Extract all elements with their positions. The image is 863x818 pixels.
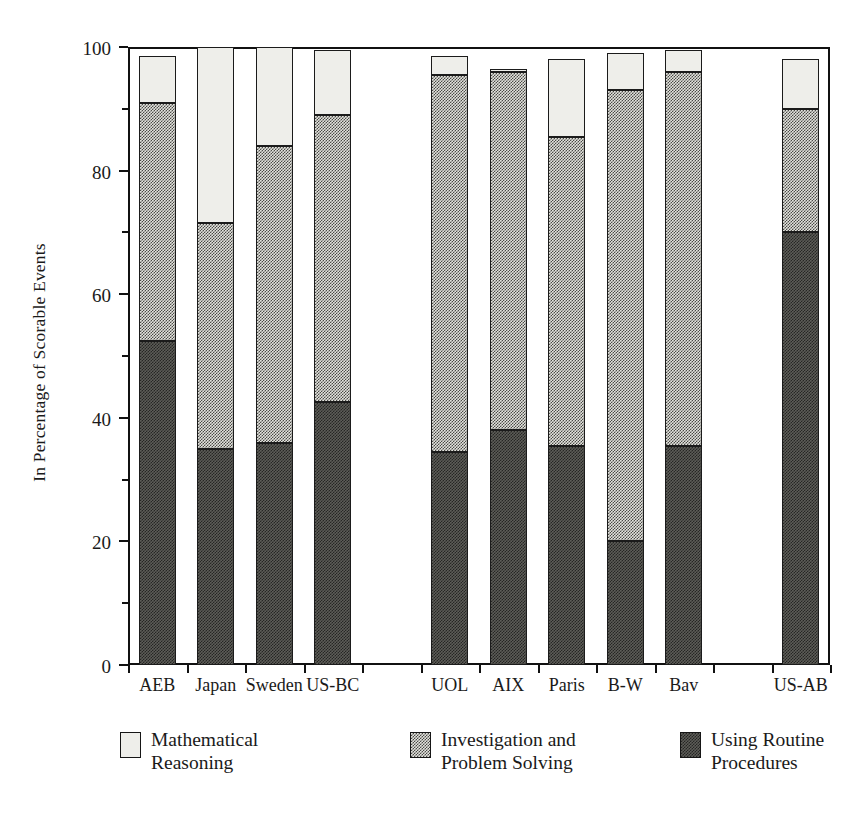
x-axis-tick bbox=[772, 665, 774, 673]
bar-segment-mathematical-reasoning[interactable] bbox=[431, 56, 468, 75]
bar-segment-investigation-and-problem-solving[interactable] bbox=[139, 103, 176, 341]
y-axis-tick: 0 bbox=[119, 664, 128, 666]
legend-item-1[interactable]: Investigation and Problem Solving bbox=[410, 729, 576, 774]
x-axis-category-label-bav: Bav bbox=[669, 676, 698, 694]
y-axis-tick-label: 40 bbox=[92, 409, 111, 428]
x-axis-tick bbox=[128, 665, 130, 673]
bar-segment-investigation-and-problem-solving[interactable] bbox=[548, 137, 585, 446]
bar-segment-investigation-and-problem-solving[interactable] bbox=[197, 223, 234, 449]
x-axis-tick bbox=[538, 665, 540, 673]
x-axis-tick bbox=[713, 665, 715, 673]
x-axis-category-label-aeb: AEB bbox=[139, 676, 175, 694]
y-axis-minor-tick bbox=[122, 602, 128, 604]
bar-segment-using-routine-procedures[interactable] bbox=[314, 402, 351, 665]
plot-area: 020406080100 bbox=[128, 47, 830, 665]
y-axis-tick: 60 bbox=[119, 293, 128, 295]
bar-segment-using-routine-procedures[interactable] bbox=[782, 232, 819, 665]
bar-segment-mathematical-reasoning[interactable] bbox=[314, 50, 351, 115]
bar-segment-mathematical-reasoning[interactable] bbox=[665, 50, 702, 72]
y-axis-tick: 20 bbox=[119, 540, 128, 542]
bar-segment-mathematical-reasoning[interactable] bbox=[197, 47, 234, 223]
x-axis-tick bbox=[830, 665, 832, 673]
x-axis-category-label-japan: Japan bbox=[195, 676, 236, 694]
legend-label: Mathematical Reasoning bbox=[151, 729, 258, 774]
x-axis-tick bbox=[479, 665, 481, 673]
bar-segment-using-routine-procedures[interactable] bbox=[548, 446, 585, 665]
bar-segment-investigation-and-problem-solving[interactable] bbox=[314, 115, 351, 402]
bar-segment-using-routine-procedures[interactable] bbox=[197, 449, 234, 665]
x-axis-category-label-aix: AIX bbox=[492, 676, 524, 694]
x-axis-category-label-uol: UOL bbox=[431, 676, 468, 694]
y-axis-tick: 80 bbox=[119, 170, 128, 172]
legend-label: Using Routine Procedures bbox=[711, 729, 824, 774]
x-axis-tick bbox=[362, 665, 364, 673]
x-axis-tick bbox=[245, 665, 247, 673]
bar-japan[interactable] bbox=[197, 47, 234, 665]
y-axis-tick-label: 0 bbox=[102, 657, 112, 676]
bar-aix[interactable] bbox=[490, 69, 527, 665]
y-axis-tick-label: 60 bbox=[92, 286, 111, 305]
bar-aeb[interactable] bbox=[139, 56, 176, 665]
bar-segment-using-routine-procedures[interactable] bbox=[256, 443, 293, 665]
bar-bav[interactable] bbox=[665, 50, 702, 665]
x-axis-category-label-us-bc: US-BC bbox=[306, 676, 359, 694]
x-axis-tick bbox=[596, 665, 598, 673]
y-axis-minor-tick bbox=[122, 355, 128, 357]
x-axis-tick bbox=[187, 665, 189, 673]
legend-item-2[interactable]: Using Routine Procedures bbox=[680, 729, 824, 774]
x-axis-category-label-sweden: Sweden bbox=[246, 676, 303, 694]
bar-segment-investigation-and-problem-solving[interactable] bbox=[607, 90, 644, 541]
bar-segment-mathematical-reasoning[interactable] bbox=[139, 56, 176, 102]
bar-segment-investigation-and-problem-solving[interactable] bbox=[490, 72, 527, 430]
chart-legend: Mathematical ReasoningInvestigation and … bbox=[120, 729, 850, 799]
y-axis-tick: 40 bbox=[119, 417, 128, 419]
legend-item-0[interactable]: Mathematical Reasoning bbox=[120, 729, 258, 774]
bar-segment-investigation-and-problem-solving[interactable] bbox=[256, 146, 293, 443]
legend-label: Investigation and Problem Solving bbox=[441, 729, 576, 774]
x-axis-tick bbox=[421, 665, 423, 673]
bar-paris[interactable] bbox=[548, 59, 585, 665]
y-axis-tick-label: 80 bbox=[92, 162, 111, 181]
y-axis-minor-tick bbox=[122, 479, 128, 481]
light-stipple-swatch bbox=[120, 732, 141, 758]
x-axis-tick bbox=[304, 665, 306, 673]
y-axis-title: In Percentage of Scorable Events bbox=[29, 198, 50, 528]
bar-b-w[interactable] bbox=[607, 53, 644, 665]
bar-segment-using-routine-procedures[interactable] bbox=[490, 430, 527, 665]
bar-segment-using-routine-procedures[interactable] bbox=[665, 446, 702, 665]
bar-segment-using-routine-procedures[interactable] bbox=[139, 341, 176, 665]
stacked-bar-chart-figure: In Percentage of Scorable Events 0204060… bbox=[0, 0, 863, 818]
bar-segment-mathematical-reasoning[interactable] bbox=[548, 59, 585, 136]
x-axis-category-label-paris: Paris bbox=[549, 676, 585, 694]
x-axis-tick bbox=[655, 665, 657, 673]
bar-segment-investigation-and-problem-solving[interactable] bbox=[431, 75, 468, 452]
y-axis-minor-tick bbox=[122, 231, 128, 233]
bar-sweden[interactable] bbox=[256, 47, 293, 665]
bar-us-bc[interactable] bbox=[314, 50, 351, 665]
bar-segment-mathematical-reasoning[interactable] bbox=[490, 69, 527, 72]
dark-check-swatch bbox=[680, 732, 701, 758]
bar-segment-mathematical-reasoning[interactable] bbox=[256, 47, 293, 146]
bar-us-ab[interactable] bbox=[782, 59, 819, 665]
bar-segment-investigation-and-problem-solving[interactable] bbox=[782, 109, 819, 233]
bar-segment-mathematical-reasoning[interactable] bbox=[607, 53, 644, 90]
bar-segment-investigation-and-problem-solving[interactable] bbox=[665, 72, 702, 446]
y-axis-minor-tick bbox=[122, 108, 128, 110]
bar-segment-using-routine-procedures[interactable] bbox=[607, 541, 644, 665]
y-axis-tick-label: 100 bbox=[83, 39, 112, 58]
y-axis-tick-label: 20 bbox=[92, 533, 111, 552]
medium-check-swatch bbox=[410, 732, 431, 758]
bar-segment-mathematical-reasoning[interactable] bbox=[782, 59, 819, 108]
x-axis-category-label-b-w: B-W bbox=[608, 676, 643, 694]
bar-uol[interactable] bbox=[431, 56, 468, 665]
bar-segment-using-routine-procedures[interactable] bbox=[431, 452, 468, 665]
y-axis-tick: 100 bbox=[119, 46, 128, 48]
x-axis-category-label-us-ab: US-AB bbox=[774, 676, 828, 694]
